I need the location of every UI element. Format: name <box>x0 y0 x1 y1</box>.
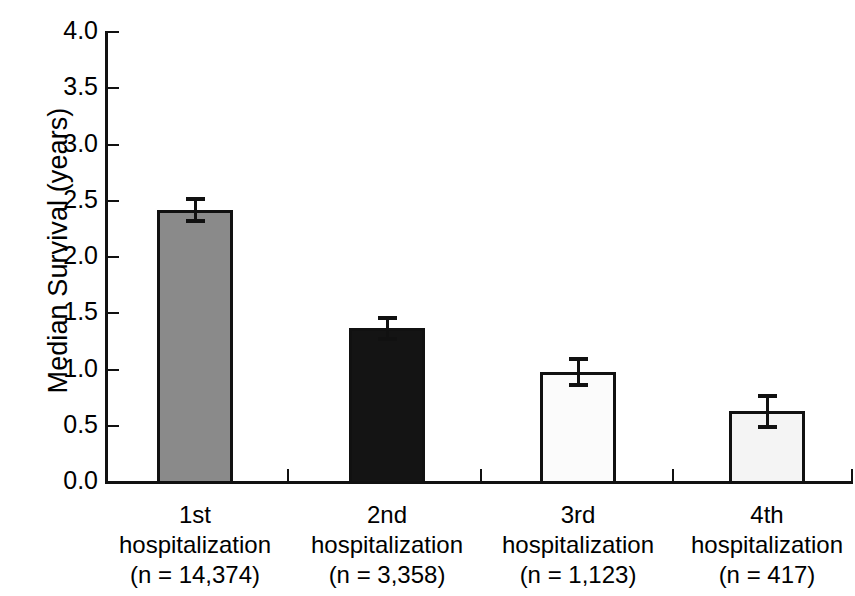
category-ordinal-4th: 4th <box>657 500 855 530</box>
category-word-4th: hospitalization <box>657 530 855 560</box>
error-bar-line-4th <box>766 394 769 428</box>
y-tick-3.5 <box>108 87 119 89</box>
category-sample-size-2nd: (n = 3,358) <box>277 560 497 590</box>
error-bar-cap-lower-1st <box>186 219 205 223</box>
error-bar-cap-upper-2nd <box>378 316 397 320</box>
y-tick-3.0 <box>108 144 119 146</box>
bar-2nd <box>349 328 425 484</box>
y-tick-0.5 <box>108 425 119 427</box>
category-word-2nd: hospitalization <box>277 530 497 560</box>
y-tick-label-3.5: 3.5 <box>34 74 98 99</box>
error-bar-cap-upper-1st <box>186 197 205 201</box>
bar-1st <box>157 210 233 484</box>
bar-3rd <box>540 372 616 484</box>
category-ordinal-2nd: 2nd <box>277 500 497 530</box>
y-tick-label-0.0: 0.0 <box>34 468 98 493</box>
y-tick-1.5 <box>108 312 119 314</box>
category-label-2nd: 2ndhospitalization(n = 3,358) <box>277 500 497 590</box>
y-tick-label-3.0: 3.0 <box>34 131 98 156</box>
y-tick-0.0 <box>108 481 119 483</box>
y-tick-label-1.5: 1.5 <box>34 299 98 324</box>
category-sample-size-1st: (n = 14,374) <box>85 560 305 590</box>
x-tick-0 <box>287 469 289 482</box>
y-tick-label-0.5: 0.5 <box>34 412 98 437</box>
category-label-3rd: 3rdhospitalization(n = 1,123) <box>468 500 688 590</box>
y-tick-label-2.5: 2.5 <box>34 187 98 212</box>
y-tick-1.0 <box>108 369 119 371</box>
error-bar-cap-upper-3rd <box>569 357 588 361</box>
error-bar-cap-lower-4th <box>758 425 777 429</box>
y-tick-label-1.0: 1.0 <box>34 356 98 381</box>
error-bar-cap-lower-3rd <box>569 383 588 387</box>
category-label-1st: 1sthospitalization(n = 14,374) <box>85 500 305 590</box>
y-tick-4.0 <box>108 31 119 33</box>
error-bar-cap-upper-4th <box>758 394 777 398</box>
bar-chart-figure: Median Survival (years) 0.00.51.01.52.02… <box>0 0 855 596</box>
error-bar-line-3rd <box>577 357 580 386</box>
y-tick-label-2.0: 2.0 <box>34 243 98 268</box>
x-tick-3 <box>851 469 853 482</box>
category-sample-size-3rd: (n = 1,123) <box>468 560 688 590</box>
category-word-1st: hospitalization <box>85 530 305 560</box>
category-ordinal-1st: 1st <box>85 500 305 530</box>
category-ordinal-3rd: 3rd <box>468 500 688 530</box>
y-tick-2.0 <box>108 256 119 258</box>
y-tick-label-4.0: 4.0 <box>34 18 98 43</box>
category-word-3rd: hospitalization <box>468 530 688 560</box>
x-tick-1 <box>480 469 482 482</box>
category-label-4th: 4thhospitalization(n = 417) <box>657 500 855 590</box>
error-bar-cap-lower-2nd <box>378 337 397 341</box>
category-sample-size-4th: (n = 417) <box>657 560 855 590</box>
y-tick-2.5 <box>108 200 119 202</box>
x-tick-2 <box>672 469 674 482</box>
